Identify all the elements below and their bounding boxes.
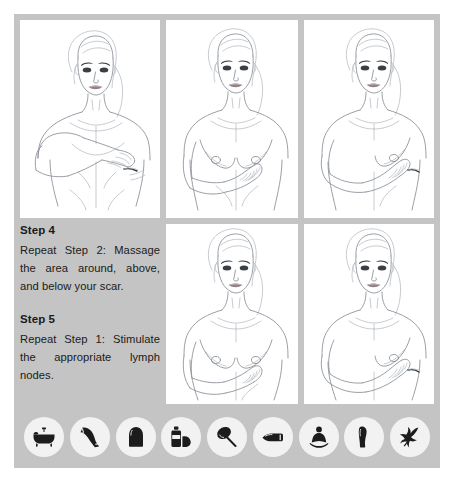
meditation-icon xyxy=(299,417,339,457)
herbal-plant-icon xyxy=(390,417,430,457)
cream-tube-icon xyxy=(253,417,293,457)
illustration-panel-top-left xyxy=(20,20,160,218)
step-4-heading: Step 4 xyxy=(20,224,160,237)
bathtub-icon xyxy=(24,417,64,457)
step-5-body: Repeat Step 1: Stimulate the appropriate… xyxy=(20,330,160,384)
massage-brush-icon xyxy=(207,417,247,457)
instruction-text-column: Step 4 Repeat Step 2: Massage the area a… xyxy=(20,224,160,404)
illustration-panel-bottom-right xyxy=(304,224,434,404)
illustration-panel-top-right xyxy=(304,20,434,218)
leg-wrap-icon xyxy=(344,417,384,457)
instruction-step-4: Step 4 Repeat Step 2: Massage the area a… xyxy=(20,224,160,295)
illustration-panel-bottom-middle xyxy=(166,224,298,404)
illustration-panel-top-middle xyxy=(166,20,298,218)
instruction-card: Step 4 Repeat Step 2: Massage the area a… xyxy=(14,14,440,468)
step-4-body: Repeat Step 2: Massage the area around, … xyxy=(20,241,160,295)
therapy-icon-strip xyxy=(20,412,434,462)
compression-sleeve-icon xyxy=(70,417,110,457)
step-5-heading: Step 5 xyxy=(20,313,160,326)
instruction-step-5: Step 5 Repeat Step 1: Stimulate the appr… xyxy=(20,313,160,384)
compression-garment-icon xyxy=(116,417,156,457)
lotion-bottle-icon xyxy=(161,417,201,457)
